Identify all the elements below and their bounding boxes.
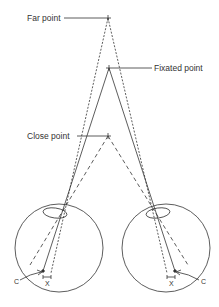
fixated-point-ray-right bbox=[109, 68, 175, 271]
far-point-ray-left bbox=[51, 18, 108, 273]
close-point-label: Close point bbox=[27, 131, 70, 141]
right-c-arrow bbox=[177, 272, 199, 280]
binocular-vision-diagram: Far point Fixated point Close point C X … bbox=[0, 0, 219, 307]
close-point-ray-right bbox=[108, 136, 188, 265]
far-point-label: Far point bbox=[27, 13, 61, 23]
right-c-label: C bbox=[201, 278, 206, 285]
right-x-label: X bbox=[169, 280, 174, 287]
fixated-point-ray-left bbox=[43, 68, 109, 271]
far-point-ray-right bbox=[108, 18, 167, 273]
left-x-label: X bbox=[45, 280, 50, 287]
left-c-label: C bbox=[14, 278, 19, 285]
right-eye bbox=[122, 204, 210, 292]
fixated-point-label: Fixated point bbox=[154, 63, 203, 73]
close-point-ray-left bbox=[30, 136, 108, 265]
